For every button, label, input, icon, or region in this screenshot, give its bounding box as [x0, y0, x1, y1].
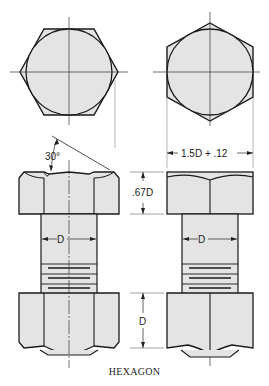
figure-caption: HEXAGON	[0, 366, 269, 377]
hexagon-bolt-drawing: 30° D 1.5D +	[0, 0, 269, 386]
front-view-across-corners: D	[19, 160, 119, 368]
shank-diameter-label-left: D	[57, 234, 64, 245]
shank-diameter-label-right: D	[198, 234, 205, 245]
nut-height-label: D	[139, 316, 146, 327]
across-flats-label: 1.5D + .12	[181, 148, 228, 159]
top-view-across-flats	[153, 12, 260, 168]
top-view-across-corners	[10, 17, 128, 148]
front-view-across-flats: 1.5D + .12 .67D D	[130, 148, 253, 366]
head-height-label: .67D	[132, 187, 153, 198]
chamfer-angle-annotation: 30°	[45, 136, 110, 171]
angle-label: 30°	[45, 151, 60, 162]
